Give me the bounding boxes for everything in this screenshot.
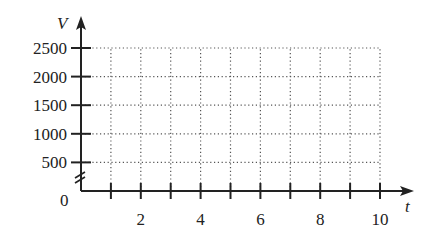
y-tick-label: 1500 — [33, 96, 67, 115]
y-axis-label: V — [57, 14, 70, 33]
chart: 2468102500200015001000500 V t 0 — [0, 0, 430, 240]
x-tick-label: 2 — [137, 210, 146, 229]
axes — [71, 16, 414, 199]
grid — [81, 48, 380, 191]
y-tick-label: 2000 — [33, 68, 67, 87]
x-axis-label: t — [405, 197, 411, 216]
y-tick-label: 500 — [42, 153, 68, 172]
y-tick-label: 1000 — [33, 125, 67, 144]
y-tick-label: 2500 — [33, 39, 67, 58]
x-tick-label: 6 — [256, 210, 265, 229]
x-tick-label: 4 — [196, 210, 205, 229]
x-tick-label: 10 — [372, 210, 389, 229]
origin-label: 0 — [60, 191, 69, 210]
x-tick-label: 8 — [316, 210, 325, 229]
